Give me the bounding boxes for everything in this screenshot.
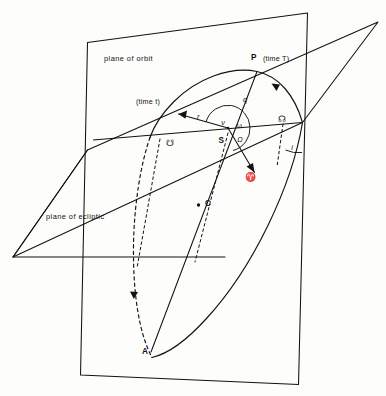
inclination-arc <box>286 150 303 153</box>
descending-node-symbol: ☋ <box>166 138 174 148</box>
projector-centre-C <box>195 133 228 262</box>
centre-point-marker <box>197 203 200 206</box>
inclination-label: i <box>291 143 293 152</box>
ecliptic-left-edge <box>13 150 88 257</box>
perihelion-label: P <box>251 53 257 62</box>
body-time-label: (time t) <box>136 97 160 106</box>
sun-label: S <box>219 136 225 145</box>
projector-descending-node <box>137 139 160 268</box>
radius-vector-arrowhead <box>179 111 188 119</box>
vernal-equinox-symbol: ♈ <box>245 171 256 182</box>
longitude-of-node-label: Ω <box>237 135 243 144</box>
aphelion-label: A <box>142 347 148 356</box>
plane-of-ecliptic-outline <box>13 22 378 257</box>
perihelion-time-label: (time T) <box>263 54 289 63</box>
orbit-direction-arrow-bottom <box>130 292 138 300</box>
orbital-elements-figure: plane of orbit plane of ecliptic P (time… <box>0 0 386 396</box>
sun-point-marker <box>227 127 230 130</box>
ascending-node-symbol: ☊ <box>278 114 286 124</box>
plane-of-ecliptic-label: plane of ecliptic <box>46 212 105 221</box>
projector-ascending-node <box>277 124 283 167</box>
diagram-canvas: plane of orbit plane of ecliptic P (time… <box>0 0 386 396</box>
true-anomaly-label: ν <box>221 118 225 127</box>
plane-of-orbit-outline <box>81 13 308 385</box>
orbit-direction-arrow-top <box>272 84 281 92</box>
true-anomaly-arc <box>206 105 232 122</box>
apse-line-A-to-P <box>151 72 257 353</box>
centre-label: C <box>205 199 211 208</box>
orbit-ellipse-hidden <box>133 138 152 358</box>
argument-of-perihelion-label: ω <box>236 121 242 130</box>
plane-of-orbit-label: plane of orbit <box>104 54 153 63</box>
vernal-equinox-arrowhead <box>247 163 255 173</box>
